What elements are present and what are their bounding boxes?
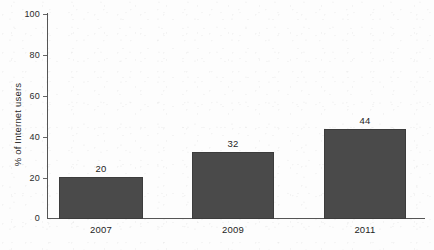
bar-value-2007: 20 xyxy=(59,163,143,174)
y-tick-40: 40 xyxy=(0,132,40,144)
y-tick-60: 60 xyxy=(0,91,40,103)
y-tick-label-0: 0 xyxy=(0,213,40,223)
bar-value-2011: 44 xyxy=(324,115,406,126)
bar-chart: % of Internet users 100 80 60 40 20 0 20… xyxy=(0,0,434,250)
y-tick-100: 100 xyxy=(0,9,40,21)
bar-2011[interactable] xyxy=(324,129,406,219)
x-tick-label-2011: 2011 xyxy=(324,224,406,235)
x-tick-label-2007: 2007 xyxy=(59,224,143,235)
y-axis-title: % of Internet users xyxy=(12,60,23,190)
y-tick-0: 0 xyxy=(0,213,40,225)
bar-value-2009: 32 xyxy=(192,138,274,149)
y-tick-label-100: 100 xyxy=(0,9,40,19)
x-tick-label-2009: 2009 xyxy=(192,224,274,235)
y-axis-line xyxy=(47,13,48,219)
bar-2009[interactable] xyxy=(192,152,274,219)
y-tick-label-20: 20 xyxy=(0,173,40,183)
y-tick-label-80: 80 xyxy=(0,50,40,60)
y-tick-label-40: 40 xyxy=(0,132,40,142)
y-tick-20: 20 xyxy=(0,173,40,185)
y-tick-label-60: 60 xyxy=(0,91,40,101)
y-tick-80: 80 xyxy=(0,50,40,62)
bar-2007[interactable] xyxy=(59,177,143,219)
